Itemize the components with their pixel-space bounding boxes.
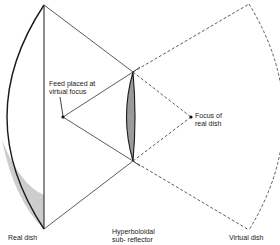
sub-reflector-label-line2: sub- reflector	[112, 236, 155, 244]
feed-label-line2: virtual focus	[49, 88, 95, 96]
antenna-diagram	[0, 0, 280, 245]
real-dish-label: Real dish	[8, 234, 37, 242]
feed-label-line1: Feed placed at	[49, 80, 95, 88]
sub-reflector-label: Hyperboloidal sub- reflector	[112, 228, 155, 244]
solid-rays	[44, 5, 140, 229]
focus-label: Focus of real dish	[195, 112, 222, 128]
virtual-dish-arc	[249, 4, 280, 230]
real-dish	[2, 5, 44, 229]
virtual-dish-label: Virtual dish	[229, 234, 264, 242]
sub-reflector-body	[127, 72, 136, 161]
sub-reflector-label-line1: Hyperboloidal	[112, 228, 155, 236]
feed-leader-line	[60, 97, 63, 116]
sub-reflector	[127, 72, 136, 161]
focus-point	[189, 115, 192, 118]
real-dish-hatch	[2, 140, 44, 229]
feed-label: Feed placed at virtual focus	[49, 80, 95, 96]
focus-label-line2: real dish	[195, 120, 222, 128]
focus-label-line1: Focus of	[195, 112, 222, 120]
